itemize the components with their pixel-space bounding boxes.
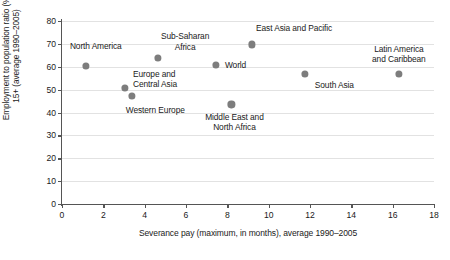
data-point[interactable]	[395, 71, 402, 78]
data-point[interactable]	[249, 41, 256, 48]
data-point-label: Middle East andNorth Africa	[205, 112, 264, 132]
x-axis-title: Severance pay (maximum, in months), aver…	[62, 228, 434, 238]
data-point-label: North America	[70, 41, 122, 51]
y-tick-mark	[58, 21, 62, 22]
data-point-label-line: Europe and	[133, 69, 177, 79]
data-point-label: Latin Americaand Caribbean	[372, 44, 426, 64]
x-tick-mark	[145, 204, 146, 208]
data-point[interactable]	[228, 101, 235, 108]
y-axis-title-line-2: 15+ (average 1990–2005)	[11, 0, 21, 156]
data-point-label-line: Africa	[161, 42, 209, 52]
y-tick-mark	[58, 113, 62, 114]
data-point-label-line: North America	[70, 41, 122, 51]
x-tick-mark	[393, 204, 394, 208]
x-tick-label: 2	[101, 211, 106, 220]
x-tick-mark	[351, 204, 352, 208]
data-point-label-line: Middle East and	[205, 112, 264, 122]
data-point-label: Europe andCentral Asia	[133, 69, 177, 89]
x-tick-mark	[227, 204, 228, 208]
plot-area: 01020304050607080 024681012141618 North …	[62, 21, 434, 204]
gridline	[62, 21, 434, 22]
y-tick-label: 70	[46, 40, 56, 49]
gridline	[62, 135, 434, 136]
x-tick-mark	[269, 204, 270, 208]
data-point-label-line: South Asia	[315, 80, 354, 90]
gridline	[62, 181, 434, 182]
y-axis-title-line-1: Employment to population ratio (%),	[1, 0, 11, 156]
y-tick-mark	[58, 135, 62, 136]
y-axis-title: Employment to population ratio (%), 15+ …	[1, 0, 41, 156]
y-tick-label: 20	[46, 154, 56, 163]
y-tick-label: 40	[46, 108, 56, 117]
data-point-label-line: and Caribbean	[372, 54, 426, 64]
y-tick-label: 10	[46, 177, 56, 186]
y-tick-mark	[58, 90, 62, 91]
data-point-label-line: East Asia and Pacific	[256, 23, 332, 33]
x-tick-label: 4	[142, 211, 147, 220]
x-tick-mark	[62, 204, 63, 208]
y-tick-label: 30	[46, 131, 56, 140]
y-tick-label: 50	[46, 85, 56, 94]
x-tick-mark	[310, 204, 311, 208]
data-point-label-line: Central Asia	[133, 79, 177, 89]
x-tick-label: 14	[347, 211, 357, 220]
data-point-label-line: North Africa	[205, 122, 264, 132]
data-point-label: Western Europe	[126, 105, 185, 115]
data-point[interactable]	[129, 92, 136, 99]
data-point[interactable]	[301, 70, 308, 77]
data-point-label: East Asia and Pacific	[256, 23, 332, 33]
gridline	[62, 158, 434, 159]
x-tick-mark	[103, 204, 104, 208]
data-point-label-line: Western Europe	[126, 105, 185, 115]
gridline	[62, 67, 434, 68]
data-point-label-line: World	[225, 60, 246, 70]
x-tick-label: 6	[184, 211, 189, 220]
x-tick-label: 18	[429, 211, 439, 220]
gridline	[62, 90, 434, 91]
x-tick-mark	[434, 204, 435, 208]
y-tick-mark	[58, 181, 62, 182]
x-tick-label: 16	[388, 211, 398, 220]
y-tick-label: 80	[46, 17, 56, 26]
x-tick-mark	[186, 204, 187, 208]
x-tick-label: 12	[305, 211, 315, 220]
x-tick-label: 0	[60, 211, 65, 220]
y-tick-mark	[58, 67, 62, 68]
x-tick-label: 8	[225, 211, 230, 220]
scatter-chart: Employment to population ratio (%), 15+ …	[0, 0, 450, 260]
y-tick-label: 0	[51, 200, 56, 209]
y-tick-mark	[58, 44, 62, 45]
data-point-label: World	[225, 60, 246, 70]
data-point-label-line: Sub-Saharan	[161, 31, 209, 41]
y-tick-label: 60	[46, 62, 56, 71]
data-point-label: Sub-SaharanAfrica	[161, 31, 209, 51]
data-point-label-line: Latin America	[372, 44, 426, 54]
data-point-label: South Asia	[315, 80, 354, 90]
x-tick-label: 10	[264, 211, 274, 220]
data-point[interactable]	[82, 63, 89, 70]
y-tick-mark	[58, 158, 62, 159]
data-point[interactable]	[155, 54, 162, 61]
